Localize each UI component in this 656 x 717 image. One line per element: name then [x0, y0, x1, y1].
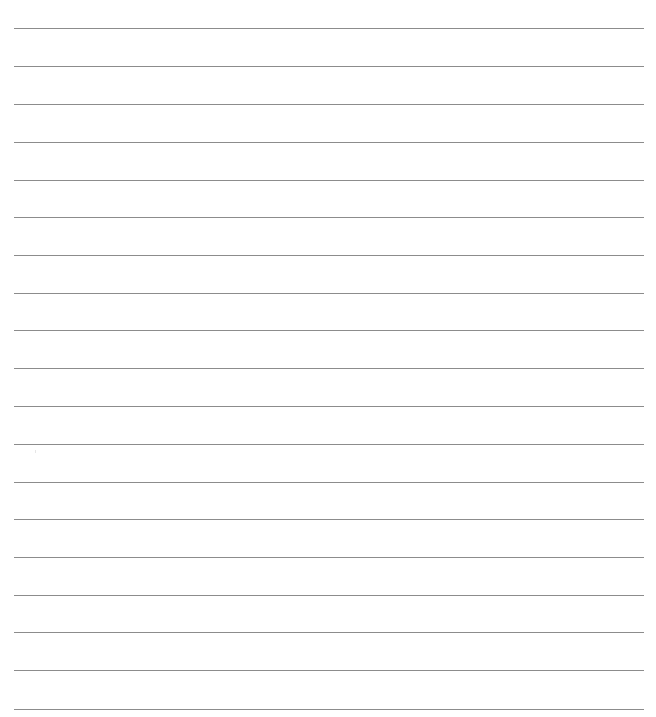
ruled-line	[14, 255, 644, 256]
ruled-line	[14, 482, 644, 483]
ruled-line	[14, 104, 644, 105]
ruled-line	[14, 368, 644, 369]
ruled-line	[14, 519, 644, 520]
ruled-line	[14, 217, 644, 218]
ruled-line	[14, 330, 644, 331]
paper-speck	[35, 450, 36, 453]
ruled-line	[14, 444, 644, 445]
ruled-line	[14, 595, 644, 596]
ruled-line	[14, 557, 644, 558]
ruled-line	[14, 28, 644, 29]
ruled-line	[14, 66, 644, 67]
ruled-line	[14, 180, 644, 181]
ruled-line	[14, 142, 644, 143]
ruled-line	[14, 709, 644, 710]
ruled-line	[14, 406, 644, 407]
ruled-line	[14, 293, 644, 294]
lined-paper-page	[0, 0, 656, 717]
ruled-line	[14, 632, 644, 633]
ruled-line	[14, 670, 644, 671]
